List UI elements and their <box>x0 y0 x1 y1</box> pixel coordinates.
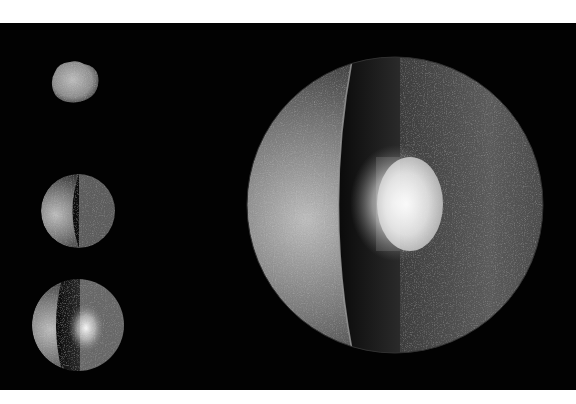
illustration <box>0 0 576 404</box>
stage-1-rubble <box>52 61 99 102</box>
stage-2-body <box>41 170 119 252</box>
stage-4-body <box>247 55 550 360</box>
stage-3-body <box>32 278 126 372</box>
